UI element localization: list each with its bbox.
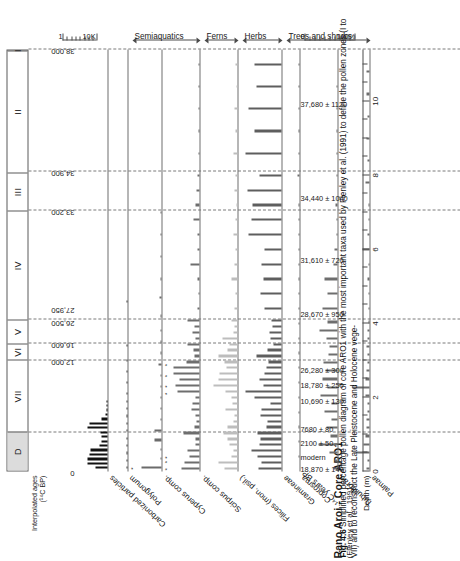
charcoal-scale-tick — [96, 33, 97, 40]
charcoal-scale-tick — [75, 36, 76, 40]
group-arrow-down — [278, 37, 282, 43]
percent-scale-tick — [329, 36, 330, 40]
group-label: Ferns — [206, 31, 227, 40]
charcoal-scale-bar: 110K — [58, 15, 102, 45]
charcoal-scale-tick — [66, 36, 67, 40]
group-label: Herbs — [244, 31, 266, 40]
caption-number: Fig. 4.6 — [338, 529, 347, 557]
caption-text: Simplified percentage pollen diagram of … — [338, 18, 358, 557]
percent-scale-tick — [334, 36, 335, 40]
charcoal-scale-min-label: 1 — [58, 31, 62, 40]
group-arrow-down — [196, 37, 200, 43]
charcoal-scale-max-label: 10K — [82, 31, 95, 40]
percent-scale-min-label: 0 — [300, 31, 304, 40]
charcoal-scale-tick — [79, 36, 80, 40]
percent-scale-tick — [319, 36, 320, 40]
group-label: Semiaquatics — [134, 31, 183, 40]
group-arrow-down — [366, 37, 370, 43]
figure-caption: Fig. 4.6 Simplified percentage pollen di… — [338, 5, 360, 557]
charcoal-scale-tick — [71, 36, 72, 40]
percent-scale-tick — [309, 36, 310, 40]
percent-scale-tick — [324, 36, 325, 40]
group-arrow-down — [234, 37, 238, 43]
percent-scale-tick — [314, 36, 315, 40]
